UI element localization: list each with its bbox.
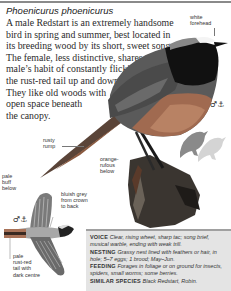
- label-line: forehead: [190, 20, 211, 26]
- label-line: rump: [43, 143, 55, 149]
- info-box: VOICE Clear, rising wheet, sharp tac; so…: [86, 229, 231, 291]
- similar-species-key: SIMILAR SPECIES: [90, 278, 141, 284]
- similar-species-entry: SIMILAR SPECIES Black Redstart, Robin.: [90, 278, 228, 285]
- label-line: below: [100, 168, 119, 174]
- male-symbol-icon: ♂⚓: [210, 100, 224, 109]
- label-orange-rufous: orange- rufous below: [100, 156, 119, 175]
- label-rusty-rump: rusty rump: [43, 137, 55, 149]
- leader-line: [214, 28, 215, 36]
- feeding-entry: FEEDING Forages in foliage or on ground …: [90, 263, 228, 278]
- similar-species-value: Black Redstart, Robin.: [143, 278, 198, 284]
- voice-value: Clear, rising wheet, sharp tac; song bri…: [90, 234, 209, 247]
- leader-line: [62, 146, 84, 147]
- feeding-key: FEEDING: [90, 263, 116, 269]
- voice-entry: VOICE Clear, rising wheet, sharp tac; so…: [90, 234, 228, 249]
- nesting-key: NESTING: [90, 249, 116, 255]
- voice-key: VOICE: [90, 234, 108, 240]
- male-symbol-icon: ♂⚓: [13, 215, 27, 224]
- label-pale-tail: pale rust-red tail with dark centre: [13, 253, 40, 278]
- label-pale-buff: pale buff below: [2, 173, 16, 192]
- nesting-entry: NESTING Grassy nest lined with feathers …: [90, 249, 228, 264]
- label-line: dark centre: [13, 272, 40, 278]
- label-bluish-grey: bluish grey from crown to back: [61, 191, 88, 210]
- label-line: below: [2, 185, 16, 191]
- label-white-forehead: white forehead: [190, 14, 211, 26]
- label-line: to back: [61, 203, 88, 209]
